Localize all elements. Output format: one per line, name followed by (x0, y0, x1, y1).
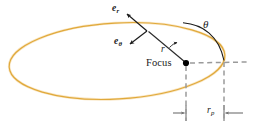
transverse-unit-vector-arrow (130, 31, 147, 44)
transverse-unit-vector-label: eθ (114, 37, 122, 47)
focus-text: Focus (146, 57, 172, 68)
orbit-ellipse (7, 17, 227, 105)
transverse-unit-vector-subscript: θ (118, 40, 122, 47)
radial-unit-vector-label: er (112, 4, 119, 14)
perihelion-subscript: p (211, 109, 214, 116)
major-axis-dashed-line (190, 62, 248, 63)
true-anomaly-symbol: θ (203, 18, 208, 30)
focus-dot (183, 60, 189, 66)
radius-symbol: r (161, 44, 165, 54)
true-anomaly-label: θ (203, 19, 208, 30)
radial-unit-vector-subscript: r (116, 7, 119, 14)
orbit-diagram: er eθ r θ Focus rp (0, 0, 255, 129)
focus-label: Focus (146, 58, 172, 69)
perihelion-distance-label: rp (207, 106, 214, 116)
radius-label-leader (170, 43, 178, 48)
orbit-diagram-canvas (0, 0, 255, 129)
radius-label: r (161, 45, 165, 55)
